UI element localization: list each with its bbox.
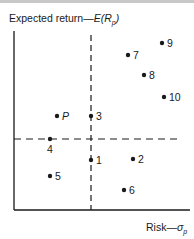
point-7: 7 xyxy=(126,49,139,61)
x-axis-label: Risk—σp xyxy=(146,221,187,235)
point-label: 4 xyxy=(47,143,53,155)
point-label: P xyxy=(62,110,69,122)
point-5: 5 xyxy=(48,170,61,182)
point-marker xyxy=(48,174,52,178)
point-8: 8 xyxy=(142,69,155,81)
point-marker xyxy=(122,188,126,192)
point-4: 4 xyxy=(47,137,53,155)
point-label: 10 xyxy=(169,91,181,103)
point-label: 2 xyxy=(138,153,144,165)
point-marker xyxy=(55,114,59,118)
point-9: 9 xyxy=(160,37,173,49)
point-label: 8 xyxy=(149,69,155,81)
point-label: 1 xyxy=(96,154,102,166)
point-marker xyxy=(160,41,164,45)
point-marker xyxy=(126,53,130,57)
point-marker xyxy=(131,157,135,161)
scatter-plot: P12345678910 xyxy=(0,0,194,239)
point-marker xyxy=(142,73,146,77)
point-p: P xyxy=(55,110,69,122)
point-label: 7 xyxy=(133,49,139,61)
point-2: 2 xyxy=(131,153,144,165)
point-marker xyxy=(89,114,93,118)
point-marker xyxy=(48,137,52,141)
point-label: 5 xyxy=(55,170,61,182)
point-marker xyxy=(89,158,93,162)
point-label: 6 xyxy=(129,184,135,196)
point-label: 3 xyxy=(96,110,102,122)
point-marker xyxy=(162,95,166,99)
point-10: 10 xyxy=(162,91,181,103)
point-label: 9 xyxy=(167,37,173,49)
point-6: 6 xyxy=(122,184,135,196)
data-points: P12345678910 xyxy=(47,37,181,196)
